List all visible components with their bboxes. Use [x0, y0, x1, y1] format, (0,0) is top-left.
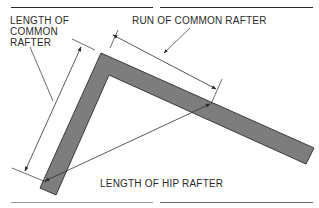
extension-line	[211, 79, 222, 104]
rafter-shape	[40, 53, 314, 195]
run-leader-line	[164, 28, 190, 53]
bottom-border-rule	[160, 202, 313, 203]
label-length-hip-rafter: LENGTH OF HIP RAFTER	[100, 178, 223, 189]
extension-line	[12, 168, 46, 182]
bottom-border-rule	[11, 202, 153, 203]
extension-line	[72, 39, 95, 50]
common-leader-line	[30, 47, 53, 101]
label-length-common-rafter: LENGTH OF COMMON RAFTER	[10, 15, 69, 48]
extension-line	[110, 30, 118, 48]
label-run-common-rafter: RUN OF COMMON RAFTER	[132, 15, 267, 26]
